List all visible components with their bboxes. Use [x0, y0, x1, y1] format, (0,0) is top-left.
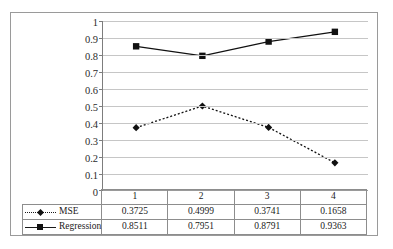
y-axis-tick-label: 0.9 [18, 35, 98, 46]
y-axis-tickmark [99, 157, 103, 158]
series-line-regression [136, 32, 335, 56]
table-corner-spacer [23, 190, 102, 205]
legend-key-icon [25, 222, 56, 233]
legend-inner: Regression [23, 221, 101, 234]
y-axis-tick-label: 0.7 [18, 69, 98, 80]
gridline [103, 157, 368, 158]
table-cell: 0.8791 [234, 220, 300, 235]
y-axis-tickmark [99, 174, 103, 175]
data-point-marker-regression [265, 38, 271, 44]
plot-area [102, 21, 368, 191]
y-axis-tick-label: 0.4 [18, 120, 98, 131]
gridline [103, 55, 368, 56]
legend-inner: MSE [23, 206, 101, 219]
y-axis-tickmark [99, 21, 103, 22]
data-table: 1234MSE0.37250.49990.37410.1658Regressio… [22, 189, 367, 235]
y-axis-tick-label: 0.1 [18, 171, 98, 182]
table-column-header: 3 [234, 190, 300, 205]
gridline [103, 140, 368, 141]
y-axis-tickmark [99, 38, 103, 39]
y-axis-tick-label: 0.2 [18, 154, 98, 165]
gridline [103, 123, 368, 124]
table-column-header: 2 [168, 190, 234, 205]
legend-entry-mse: MSE [23, 205, 102, 220]
data-point-marker-regression [133, 43, 139, 49]
y-axis-tick-label: 0.5 [18, 103, 98, 114]
legend-marker-diamond-icon [37, 208, 44, 215]
data-point-marker-mse [133, 124, 140, 131]
legend-label: MSE [59, 207, 79, 217]
y-axis-tick-label: 0.8 [18, 52, 98, 63]
table-row: Regression0.85110.79510.87910.9363 [23, 220, 367, 235]
chart-frame: 00.10.20.30.40.50.60.70.80.91 1234MSE0.3… [10, 12, 378, 236]
y-axis-tick-label: 0.6 [18, 86, 98, 97]
data-point-marker-mse [265, 124, 272, 131]
legend-marker-square-icon [37, 224, 43, 230]
y-axis-tick-label: 1 [18, 18, 98, 29]
gridline [103, 72, 368, 73]
table-cell: 0.7951 [168, 220, 234, 235]
table-header-row: 1234 [23, 190, 367, 205]
y-axis-tickmark [99, 123, 103, 124]
plot-region: 00.10.20.30.40.50.60.70.80.91 [11, 13, 377, 193]
table-cell: 0.4999 [168, 205, 234, 220]
gridline [103, 89, 368, 90]
legend-label: Regression [59, 222, 101, 232]
y-axis-tickmark [99, 89, 103, 90]
gridline [103, 38, 368, 39]
y-axis-tickmark [99, 106, 103, 107]
gridline [103, 174, 368, 175]
y-axis-tickmark [99, 140, 103, 141]
y-axis-tickmark [99, 72, 103, 73]
gridline [103, 21, 368, 22]
y-axis-tick-labels: 00.10.20.30.40.50.60.70.80.91 [11, 15, 102, 187]
table-column-header: 1 [102, 190, 168, 205]
table-row: MSE0.37250.49990.37410.1658 [23, 205, 367, 220]
table-column-header: 4 [300, 190, 366, 205]
data-point-marker-mse [331, 159, 338, 166]
data-table-body: 1234MSE0.37250.49990.37410.1658Regressio… [23, 190, 367, 235]
legend-key-icon [25, 207, 56, 218]
y-axis-tickmark [99, 55, 103, 56]
data-point-marker-regression [332, 29, 338, 35]
table-cell: 0.8511 [102, 220, 168, 235]
table-cell: 0.3725 [102, 205, 168, 220]
table-cell: 0.3741 [234, 205, 300, 220]
table-cell: 0.9363 [300, 220, 366, 235]
gridline [103, 106, 368, 107]
y-axis-tick-label: 0.3 [18, 137, 98, 148]
table-cell: 0.1658 [300, 205, 366, 220]
legend-entry-regression: Regression [23, 220, 102, 235]
series-line-mse [136, 106, 335, 163]
